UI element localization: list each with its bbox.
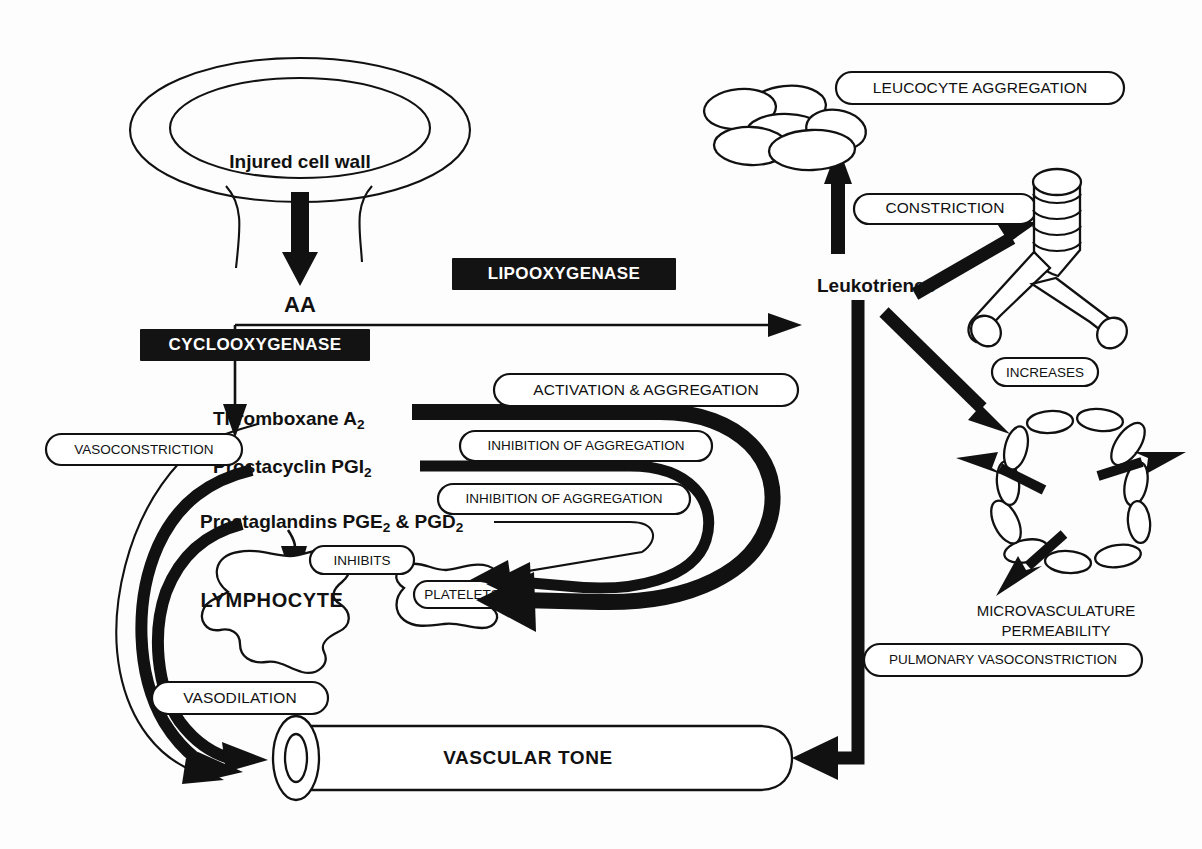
- injured-cell-wall-group: Injured cell wall: [130, 58, 470, 286]
- pill-inhibition-aggregation-2: INHIBITION OF AGGREGATION: [438, 484, 690, 514]
- vasodilation-label: VASODILATION: [183, 689, 296, 706]
- inhibits-label: INHIBITS: [333, 553, 390, 568]
- microvasc-cell-6: [1094, 542, 1143, 570]
- microvasculature-label-line2: PERMEABILITY: [1001, 622, 1110, 639]
- pill-leucocyte-aggregation: LEUCOCYTE AGGREGATION: [836, 72, 1124, 104]
- constriction-arrow-shaft: [915, 238, 1012, 294]
- increases-arrow-shaft: [884, 312, 982, 408]
- pill-inhibition-aggregation-1: INHIBITION OF AGGREGATION: [460, 431, 712, 461]
- pulmonary-arrow-shaft: [830, 300, 858, 758]
- vascular-tone-group: VASCULAR TONE: [273, 716, 792, 800]
- pulmonary-vasoconstriction-arrow: [792, 300, 858, 780]
- vasoconstriction-label: VASOCONSTRICTION: [74, 442, 213, 457]
- permeability-arrows: [956, 452, 1186, 596]
- pill-inhibits: INHIBITS: [310, 546, 414, 574]
- microvasculature-label-line1: MICROVASCULATURE: [977, 602, 1136, 619]
- lymphocyte-label: LYMPHOCYTE: [200, 589, 343, 611]
- funnel-left-edge: [226, 186, 239, 268]
- cascade-diagram-canvas: Injured cell wall AA LIPOOXYGENASE CYCLO…: [0, 0, 1202, 849]
- increases-label: INCREASES: [1006, 365, 1084, 380]
- pulmonary-arrow-head: [792, 736, 838, 780]
- pill-constriction: CONSTRICTION: [854, 194, 1036, 224]
- inhibition-aggregation-curve-2: [494, 522, 653, 576]
- microvasc-cell-7: [1044, 549, 1091, 574]
- pill-vasodilation: VASODILATION: [152, 682, 328, 714]
- cell-wall-to-aa-arrow: [282, 192, 318, 286]
- injured-cell-wall-label: Injured cell wall: [229, 151, 371, 172]
- leucocyte-arrow-shaft: [831, 178, 845, 254]
- constriction-label: CONSTRICTION: [885, 199, 1004, 216]
- thromboxane-label: Thromboxane A2: [213, 408, 365, 432]
- lipooxygenase-label: LIPOOXYGENASE: [488, 264, 641, 283]
- microvasc-cell-2: [1076, 407, 1124, 434]
- cell-wall-outer-ellipse: [130, 58, 470, 202]
- inhibition-aggregation-label-2: INHIBITION OF AGGREGATION: [465, 491, 662, 506]
- increases-arrow-head: [968, 392, 1010, 434]
- cyclooxygenase-label: CYCLOOXYGENASE: [169, 335, 342, 354]
- inhibition-aggregation-arrow-2: [470, 522, 653, 588]
- lipooxygenase-pathway: LIPOOXYGENASE: [300, 258, 802, 337]
- vascular-tone-label: VASCULAR TONE: [443, 747, 613, 768]
- lipooxygenase-arrow-head: [768, 313, 802, 337]
- pill-vasoconstriction: VASOCONSTRICTION: [46, 434, 242, 465]
- arachidonic-acid-cascade-diagram: Injured cell wall AA LIPOOXYGENASE CYCLO…: [0, 0, 1202, 849]
- microvasc-cell-5: [1126, 500, 1152, 544]
- permeability-arrow-head-left: [956, 452, 1006, 476]
- pulmonary-vasoconstriction-label: PULMONARY VASOCONSTRICTION: [889, 652, 1117, 667]
- constriction-arrow-head: [990, 222, 1038, 256]
- vascular-tone-opening-inner: [285, 734, 307, 782]
- leucocyte-aggregation-label: LEUCOCYTE AGGREGATION: [873, 79, 1088, 96]
- pill-activation-aggregation: ACTIVATION & AGGREGATION: [494, 374, 798, 406]
- bronchi-top-ring: [1033, 169, 1081, 195]
- pill-pulmonary-vasoconstriction: PULMONARY VASOCONSTRICTION: [864, 644, 1142, 676]
- inhibition-aggregation-label-1: INHIBITION OF AGGREGATION: [487, 438, 684, 453]
- pill-increases: INCREASES: [992, 358, 1098, 386]
- microvasculature-ring: [985, 407, 1152, 575]
- activation-aggregation-label: ACTIVATION & AGGREGATION: [533, 381, 758, 398]
- prostaglandins-arrow-head: [222, 742, 268, 772]
- microvasc-cell-1: [1026, 409, 1073, 434]
